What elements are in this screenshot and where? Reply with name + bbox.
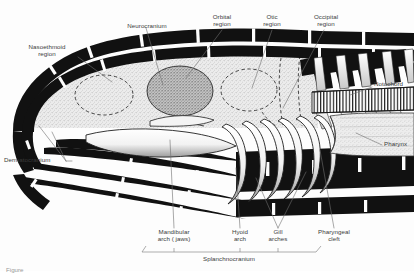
label-neurocranium: Neurocranium bbox=[112, 22, 182, 29]
label-splanchnocranium: Splanchnocranium bbox=[188, 255, 270, 262]
notochord-structure bbox=[312, 87, 414, 113]
label-notochord: Notochord bbox=[374, 80, 414, 87]
label-occipital-region: Occipital region bbox=[300, 13, 352, 28]
label-otic-region: Otic region bbox=[250, 13, 294, 28]
label-dermatocranium: Dermatocranium bbox=[4, 156, 66, 163]
orbital-region-shape bbox=[147, 66, 213, 116]
label-hyoid-arch: Hyoid arch bbox=[219, 228, 261, 243]
label-orbital-region: Orbital region bbox=[198, 13, 246, 28]
label-gill-arches: Gill arches bbox=[258, 228, 298, 243]
label-mandibular-arch: Mandibular arch ( jaws) bbox=[144, 228, 204, 243]
figure-caption-cutoff: Figure bbox=[6, 266, 24, 273]
label-nasoethmoid-region: Nasoethmoid region bbox=[14, 43, 80, 58]
pharynx-tube bbox=[330, 113, 414, 156]
label-pharyngeal-cleft: Pharyngeal cleft bbox=[306, 228, 362, 243]
label-pharynx: Pharynx bbox=[384, 140, 414, 147]
